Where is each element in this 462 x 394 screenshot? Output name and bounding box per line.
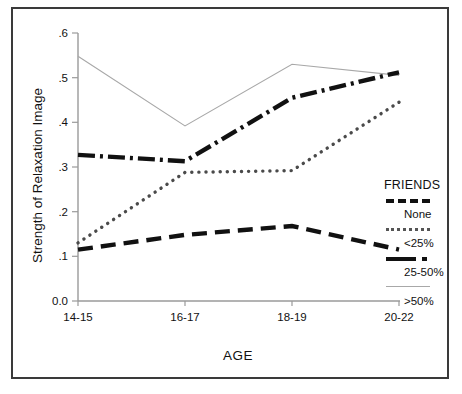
- series-line-gt50: [78, 56, 399, 126]
- y-tick-label-5: .1: [48, 250, 68, 262]
- dotted-line-swatch: [386, 228, 430, 237]
- legend-label-gt50: >50%: [404, 295, 434, 307]
- y-tick-label-2: .4: [48, 116, 68, 128]
- legend-title: FRIENDS: [384, 178, 458, 192]
- x-tick-label-0: 14-15: [63, 311, 92, 323]
- legend: FRIENDS None <25% 25-50% >50%: [384, 178, 458, 312]
- y-tick-label-6: 0.0: [38, 295, 68, 307]
- x-tick-label-1: 16-17: [170, 311, 199, 323]
- y-tick-label-1: .5: [48, 72, 68, 84]
- x-axis-title: AGE: [78, 348, 398, 363]
- legend-label-none: None: [404, 208, 432, 220]
- x-tick-label-3: 20-22: [384, 311, 413, 323]
- series-line-lt25: [78, 102, 399, 243]
- x-tick-marks: [78, 301, 399, 306]
- y-tick-marks: [72, 33, 78, 301]
- legend-entry-lt25[interactable]: <25%: [384, 225, 458, 254]
- series-line-2550: [78, 72, 399, 161]
- y-tick-label-0: .6: [48, 27, 68, 39]
- legend-entry-none[interactable]: None: [384, 196, 458, 225]
- y-tick-label-4: .2: [48, 206, 68, 218]
- y-tick-label-3: .3: [48, 161, 68, 173]
- legend-label-lt25: <25%: [404, 237, 434, 249]
- legend-label-2550: 25-50%: [404, 266, 444, 278]
- y-axis-title: Strength of Relaxation Image: [30, 61, 45, 291]
- series-line-none: [78, 226, 399, 250]
- chart-figure: .6 .5 .4 .3 .2 .1 0.0 14-15 16-17 18-19 …: [0, 0, 462, 394]
- legend-entry-2550[interactable]: 25-50%: [384, 254, 458, 283]
- legend-entry-gt50[interactable]: >50%: [384, 283, 458, 312]
- x-tick-label-2: 18-19: [277, 311, 306, 323]
- thin-solid-line-swatch: [386, 286, 430, 293]
